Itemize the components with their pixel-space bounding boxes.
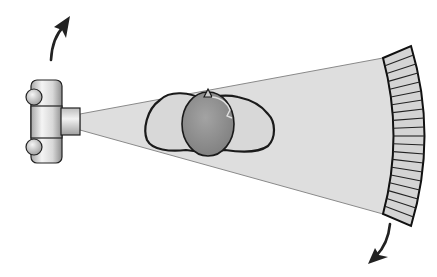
rotation-arrow-up-icon: [51, 16, 70, 60]
ct-scanner-diagram: [0, 0, 437, 277]
xray-tube: [26, 80, 80, 163]
rotation-arrow-down-icon: [368, 224, 390, 264]
